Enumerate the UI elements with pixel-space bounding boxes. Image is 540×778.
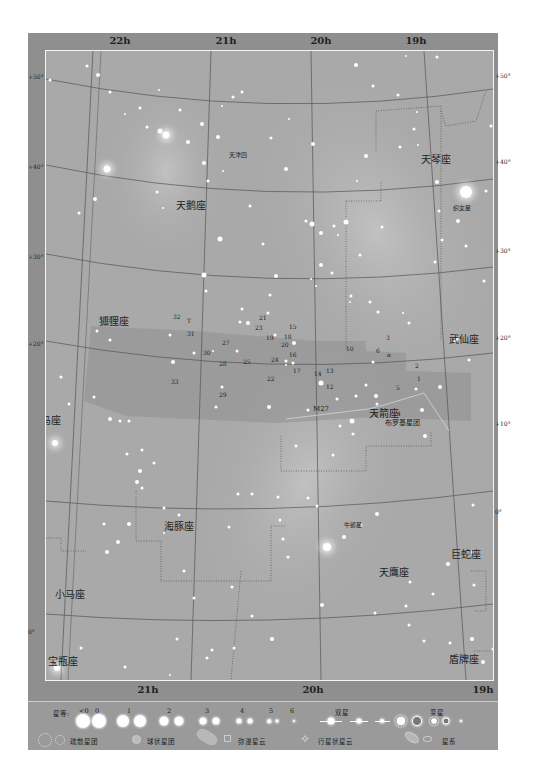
star-number-label: 6: [376, 347, 380, 354]
star-icon: [153, 462, 156, 465]
star-icon: [436, 56, 439, 59]
star-number-label: 25: [243, 358, 251, 365]
star-number-label: 35: [103, 316, 111, 323]
star-icon: [274, 274, 278, 278]
star-icon: [408, 624, 411, 627]
star-icon: [119, 420, 122, 423]
dec-label: +40°: [28, 163, 44, 170]
star-icon: [183, 570, 186, 573]
star-icon: [468, 359, 471, 362]
globular-cluster-icon: [132, 735, 141, 744]
star-number-label: T: [187, 317, 191, 324]
star-icon: [369, 301, 372, 304]
star-icon: [287, 556, 290, 559]
cluster-label: 布罗基星团: [385, 417, 420, 427]
star-icon: [460, 186, 472, 198]
star-icon: [218, 237, 223, 242]
star-icon: [105, 550, 109, 554]
star-icon: [355, 395, 358, 398]
star-number-label: 20: [281, 341, 289, 348]
star-number-label: 9: [374, 411, 378, 418]
star-number-label: 23: [255, 324, 263, 331]
star-icon: [206, 657, 209, 660]
star-chart: 22h21h20h19h +50°+40°+30°+20°0° +50°+40°…: [28, 33, 498, 701]
star-icon: [127, 522, 131, 526]
star-icon: [215, 406, 218, 409]
star-icon: [356, 180, 358, 182]
star-number-label: 12: [326, 383, 334, 390]
star-name-label: 织女星: [453, 203, 471, 212]
constellation-label: 天鹰座: [379, 564, 409, 579]
star-icon: [485, 190, 488, 193]
star-icon: [178, 514, 181, 517]
dec-label: +10°: [495, 420, 511, 427]
star-icon: [282, 538, 285, 541]
star-icon: [277, 496, 280, 499]
star-icon: [292, 362, 295, 365]
star-icon: [126, 453, 129, 456]
star-icon: [146, 126, 149, 129]
star-icon: [141, 487, 144, 490]
star-icon: [337, 234, 339, 236]
star-icon: [435, 180, 439, 184]
star-icon: [239, 321, 242, 324]
star-icon: [193, 352, 196, 355]
star-number-label: 16: [289, 351, 297, 358]
constellation-label: 海豚座: [164, 518, 194, 533]
star-icon: [232, 96, 235, 99]
star-icon: [158, 89, 160, 91]
magnitude-value: 6: [290, 707, 294, 715]
star-icon: [352, 433, 355, 436]
mag-5a-dot: [267, 719, 271, 723]
star-name-label: 天津四: [229, 150, 247, 159]
star-icon: [332, 454, 335, 457]
star-number-label: 3: [386, 334, 390, 341]
ra-label: 19h: [405, 35, 426, 46]
star-icon: [267, 312, 270, 315]
star-icon: [246, 321, 250, 325]
dec-label: +20°: [28, 340, 44, 347]
dec-label: +50°: [28, 73, 44, 80]
star-icon: [319, 231, 323, 235]
star-icon: [163, 132, 170, 139]
constellation-label: 小马座: [55, 586, 85, 601]
star-icon: [163, 507, 166, 510]
star-number-label: 31: [187, 330, 195, 337]
star-number-label: 1: [417, 375, 421, 382]
star-icon: [350, 419, 355, 424]
ra-label: 22h: [109, 35, 130, 46]
star-icon: [231, 586, 234, 589]
star-icon: [336, 398, 339, 401]
star-icon: [307, 409, 310, 412]
star-icon: [93, 197, 97, 201]
star-icon: [169, 334, 172, 337]
star-icon: [310, 278, 312, 280]
star-icon: [316, 505, 319, 508]
star-icon: [262, 243, 265, 246]
open-cluster-icon: [38, 733, 52, 747]
ra-label: 20h: [310, 35, 331, 46]
star-icon: [86, 65, 89, 68]
star-icon: [333, 225, 336, 228]
star-icon: [216, 135, 220, 139]
star-number-label: 18: [284, 333, 292, 340]
star-icon: [80, 647, 83, 650]
star-icon: [481, 660, 485, 664]
star-icon: [354, 63, 358, 67]
star-icon: [339, 425, 342, 428]
star-icon: [449, 642, 452, 645]
star-icon: [381, 226, 384, 229]
star-icon: [205, 290, 208, 293]
star-icon: [116, 540, 120, 544]
star-icon: [138, 469, 142, 473]
star-icon: [251, 615, 254, 618]
star-icon: [104, 166, 111, 173]
star-icon: [249, 205, 252, 208]
double-star-icon: [320, 720, 405, 723]
star-icon: [402, 312, 404, 314]
star-number-label: 4: [397, 410, 401, 417]
diffuse-nebula-small-icon: [224, 735, 231, 742]
star-icon: [221, 105, 223, 107]
star-icon: [399, 146, 402, 149]
star-icon: [93, 396, 96, 399]
